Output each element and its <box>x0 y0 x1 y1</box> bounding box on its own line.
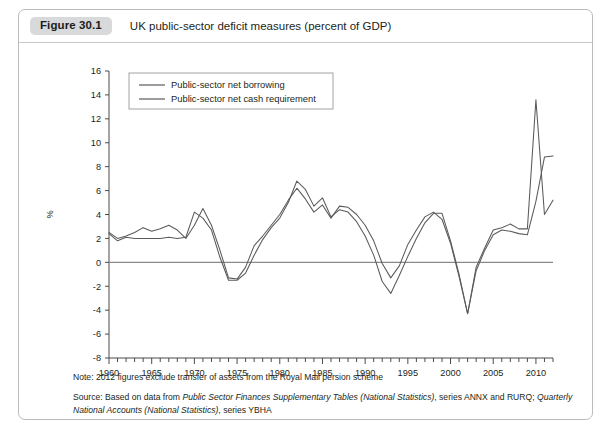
series-lines <box>109 100 553 314</box>
note-text: Note: 2012 figures exclude transfer of a… <box>73 371 573 383</box>
axes: -8-6-4-20246810121416%196019651970197519… <box>45 66 553 378</box>
y-tick-label: -6 <box>93 329 101 339</box>
chart-area: -8-6-4-20246810121416%196019651970197519… <box>19 43 592 421</box>
y-tick-label: 14 <box>91 90 101 100</box>
chart-legend: Public-sector net borrowingPublic-sector… <box>129 73 333 109</box>
y-tick-label: 12 <box>91 114 101 124</box>
y-tick-label: 6 <box>96 186 101 196</box>
y-tick-label: -2 <box>93 282 101 292</box>
y-tick-label: -8 <box>93 353 101 363</box>
line-chart: -8-6-4-20246810121416%196019651970197519… <box>19 43 594 421</box>
y-tick-label: 10 <box>91 138 101 148</box>
source-suffix: , series YBHA <box>218 405 271 415</box>
y-tick-label: 0 <box>96 258 101 268</box>
figure-number-badge: Figure 30.1 <box>30 17 112 36</box>
series-line-1 <box>109 156 553 314</box>
y-tick-label: 8 <box>96 162 101 172</box>
source-middle: , series ANNX and RURQ; <box>434 392 537 402</box>
source-italic-one: Public Sector Finances Supplementary Tab… <box>182 392 434 402</box>
figure-header: Figure 30.1 UK public-sector deficit mea… <box>19 10 592 43</box>
y-axis-title: % <box>45 210 55 218</box>
figure-notes: Note: 2012 figures exclude transfer of a… <box>73 371 573 416</box>
figure-container: Figure 30.1 UK public-sector deficit mea… <box>18 9 593 420</box>
legend-label-1: Public-sector net borrowing <box>171 79 285 90</box>
figure-title: UK public-sector deficit measures (perce… <box>130 20 391 32</box>
y-tick-label: 16 <box>91 66 101 76</box>
y-tick-label: 4 <box>96 210 101 220</box>
source-prefix: Source: Based on data from <box>73 392 182 402</box>
series-line-2 <box>109 100 553 314</box>
legend-label-2: Public-sector net cash requirement <box>171 93 316 104</box>
y-tick-label: -4 <box>93 305 101 315</box>
y-tick-label: 2 <box>96 234 101 244</box>
source-text: Source: Based on data from Public Sector… <box>73 391 573 416</box>
